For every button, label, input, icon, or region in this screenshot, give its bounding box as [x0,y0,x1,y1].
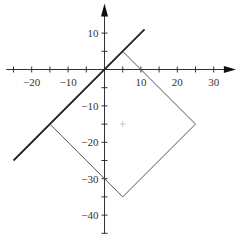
center-plus-icon [120,121,126,127]
x-tick-label: 30 [208,76,220,88]
coordinate-plane: −20−10102030 10−10−20−30−40 [0,0,240,248]
y-tick-label: −30 [81,173,99,185]
y-axis: 10−10−20−30−40 [81,4,108,234]
x-axis: −20−10102030 [6,66,236,88]
x-tick-label: −20 [23,76,41,88]
x-tick-label: 10 [135,76,147,88]
x-tick-label: −10 [59,76,77,88]
x-axis-arrow-icon [224,66,236,73]
x-tick-label: 20 [172,76,184,88]
y-tick-label: 10 [88,27,100,39]
y-axis-arrow-icon [101,4,108,17]
y-tick-label: −40 [81,209,99,221]
line-y-equals-x [14,29,145,160]
y-tick-label: −10 [81,100,99,112]
y-tick-label: −20 [81,136,99,148]
